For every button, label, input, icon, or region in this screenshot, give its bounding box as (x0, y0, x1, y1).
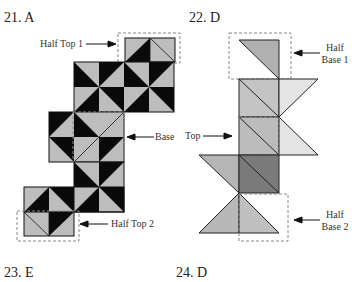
figure-22-net (199, 33, 318, 241)
grid-row-4 (49, 137, 124, 162)
grid-row-5 (74, 162, 124, 187)
label-half-base-1: Half Base 1 (318, 42, 352, 66)
grid-row-3 (49, 112, 124, 137)
label-half-top-1: Half Top 1 (40, 38, 83, 50)
label-half-top-2: Half Top 2 (111, 218, 154, 230)
half-top-1-piece (125, 38, 175, 62)
grid-row-1 (74, 62, 174, 87)
label-half-base-2: Half Base 2 (318, 209, 352, 233)
label-base: Base (155, 131, 174, 143)
half-top-2-piece (24, 212, 74, 236)
label-top: Top (185, 130, 200, 142)
grid-row-2 (74, 87, 174, 112)
